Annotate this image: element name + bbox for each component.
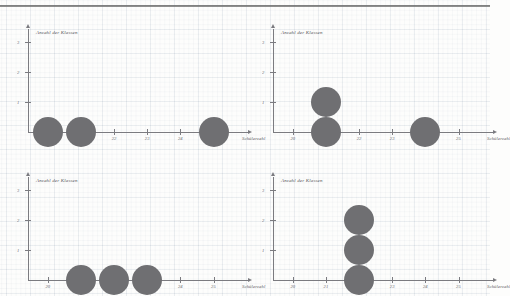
x-tick: [147, 129, 148, 135]
x-tick: [425, 277, 426, 283]
x-tick: [392, 277, 393, 283]
x-tick: [180, 129, 181, 135]
x-axis-arrow-icon: [493, 278, 497, 282]
x-axis-title: Schülerzahl: [487, 284, 510, 289]
y-axis-arrow-icon: [26, 172, 30, 176]
x-tick-label: 25: [456, 136, 461, 141]
x-tick-label: 24: [178, 136, 183, 141]
y-tick: [270, 42, 276, 43]
y-tick-label: 1: [262, 248, 264, 253]
y-tick: [25, 220, 31, 221]
x-tick: [48, 277, 49, 283]
dotplot-panel-3: Anzahl der KlassenSchülerzahl20212223242…: [0, 148, 245, 296]
page-top-rule: [0, 5, 490, 7]
dotplot-panel-2: Anzahl der KlassenSchülerzahl20212223242…: [245, 10, 490, 148]
dotplot-panel-grid: Anzahl der KlassenSchülerzahl20212223242…: [0, 10, 490, 296]
data-dot: [344, 235, 374, 265]
data-dot: [199, 117, 229, 147]
y-tick-label: 1: [17, 248, 19, 253]
y-axis-title: Anzahl der Klassen: [281, 30, 323, 35]
x-tick-label: 22: [112, 136, 117, 141]
y-tick: [25, 102, 31, 103]
x-tick: [214, 277, 215, 283]
data-dot: [311, 117, 341, 147]
y-tick-label: 2: [262, 70, 264, 75]
x-tick-label: 23: [390, 284, 395, 289]
y-tick: [270, 250, 276, 251]
y-tick-label: 1: [262, 100, 264, 105]
x-tick-label: 20: [45, 284, 50, 289]
y-axis-title: Anzahl der Klassen: [36, 30, 78, 35]
plot-area: Anzahl der KlassenSchülerzahl20212223242…: [0, 148, 245, 296]
y-axis-title: Anzahl der Klassen: [281, 178, 323, 183]
y-tick: [25, 72, 31, 73]
data-dot: [66, 117, 96, 147]
data-dot: [33, 117, 63, 147]
x-axis-arrow-icon: [493, 130, 497, 134]
y-axis-title: Anzahl der Klassen: [36, 178, 78, 183]
y-tick: [270, 72, 276, 73]
x-tick: [180, 277, 181, 283]
x-tick-label: 20: [290, 136, 295, 141]
x-tick-label: 22: [357, 136, 362, 141]
x-tick-label: 24: [178, 284, 183, 289]
x-axis-title: Schülerzahl: [487, 136, 510, 141]
y-tick: [270, 220, 276, 221]
y-tick-label: 3: [17, 188, 19, 193]
y-tick-label: 2: [262, 218, 264, 223]
y-tick: [270, 190, 276, 191]
dotplot-panel-4: Anzahl der KlassenSchülerzahl20212223242…: [245, 148, 490, 296]
data-dot: [132, 265, 162, 295]
y-axis-arrow-icon: [271, 172, 275, 176]
x-tick-label: 24: [423, 284, 428, 289]
x-tick: [459, 277, 460, 283]
x-tick-label: 23: [390, 136, 395, 141]
y-axis-arrow-icon: [26, 24, 30, 28]
x-tick: [459, 129, 460, 135]
plot-area: Anzahl der KlassenSchülerzahl20212223242…: [0, 10, 245, 148]
data-dot: [410, 117, 440, 147]
x-tick: [114, 129, 115, 135]
y-axis-arrow-icon: [271, 24, 275, 28]
y-tick: [25, 42, 31, 43]
x-tick: [359, 129, 360, 135]
dotplot-panel-1: Anzahl der KlassenSchülerzahl20212223242…: [0, 10, 245, 148]
x-tick: [326, 277, 327, 283]
y-tick: [270, 102, 276, 103]
y-tick-label: 2: [17, 70, 19, 75]
y-tick: [25, 250, 31, 251]
x-axis-line: [273, 280, 493, 281]
y-tick-label: 1: [17, 100, 19, 105]
x-axis-line: [273, 132, 493, 133]
x-tick: [392, 129, 393, 135]
data-dot: [66, 265, 96, 295]
x-tick-label: 23: [145, 136, 150, 141]
data-dot: [344, 265, 374, 295]
y-axis-line: [273, 177, 274, 281]
y-axis-line: [273, 29, 274, 133]
plot-area: Anzahl der KlassenSchülerzahl20212223242…: [245, 148, 490, 296]
y-tick-label: 3: [17, 40, 19, 45]
data-dot: [99, 265, 129, 295]
x-tick-label: 25: [211, 284, 216, 289]
plot-area: Anzahl der KlassenSchülerzahl20212223242…: [245, 10, 490, 148]
y-tick-label: 3: [262, 40, 264, 45]
y-tick-label: 2: [17, 218, 19, 223]
data-dot: [311, 87, 341, 117]
x-tick-label: 21: [324, 284, 329, 289]
x-tick-label: 25: [456, 284, 461, 289]
y-axis-line: [28, 29, 29, 133]
x-tick: [293, 129, 294, 135]
y-axis-line: [28, 177, 29, 281]
x-tick-label: 20: [290, 284, 295, 289]
y-tick-label: 3: [262, 188, 264, 193]
y-tick: [25, 190, 31, 191]
data-dot: [344, 205, 374, 235]
x-tick: [293, 277, 294, 283]
